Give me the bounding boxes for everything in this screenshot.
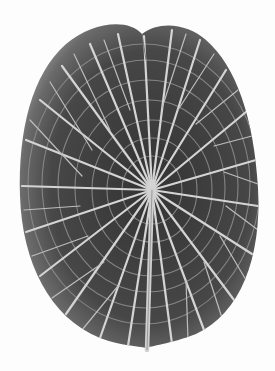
leaf-photo — [0, 0, 275, 371]
water-lily-leaf-illustration — [0, 0, 275, 371]
